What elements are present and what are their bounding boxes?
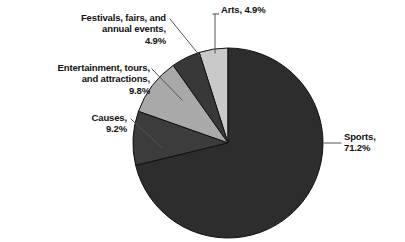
pie-slices — [133, 48, 323, 238]
pie-label-arts: Arts, 4.9% — [221, 4, 311, 15]
leader-line-festivals — [170, 19, 200, 56]
pie-chart-figure: Festivals, fairs, and annual events, 4.9… — [0, 0, 405, 242]
pie-label-entertainment: Entertainment, tours, and attractions, 9… — [2, 62, 150, 96]
pie-label-sports: Sports, 71.2% — [344, 131, 404, 154]
pie-label-festivals: Festivals, fairs, and annual events, 4.9… — [18, 12, 166, 46]
pie-label-causes: Causes, 9.2% — [22, 112, 127, 135]
